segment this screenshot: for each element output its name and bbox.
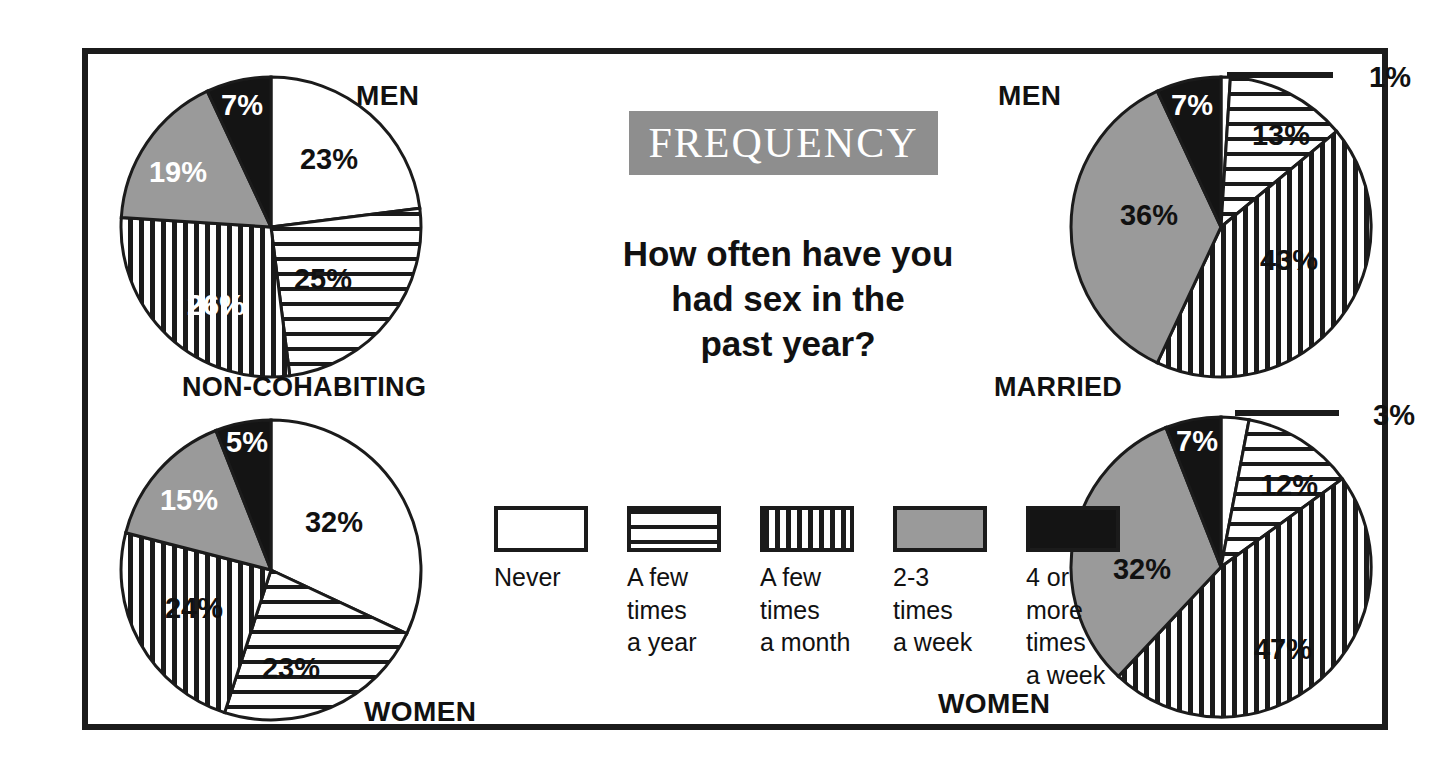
pct-label-few-times-year: 12%	[1260, 469, 1318, 501]
legend: Never A few times a year A few times a m…	[494, 506, 1126, 691]
swatch-few-times-month-icon	[760, 506, 854, 552]
legend-4more-line-3: times	[1026, 626, 1126, 659]
pie-svg-married-men: 1% 13% 43% 36% 7%	[1066, 62, 1396, 392]
label-men-non-cohabiting: MEN	[356, 80, 419, 112]
swatch-4-or-more-week-icon	[1026, 506, 1120, 552]
pct-label-few-times-year: 13%	[1252, 119, 1310, 151]
question-line-2: had sex in the	[578, 277, 998, 322]
pct-label-never: 3%	[1373, 399, 1415, 431]
swatch-few-times-year-icon	[627, 506, 721, 552]
pct-label-4-or-more-week: 7%	[1171, 89, 1213, 121]
legend-year-line-2: times	[627, 594, 727, 627]
legend-23-line-2: times	[893, 594, 993, 627]
question-heading: How often have you had sex in the past y…	[578, 232, 998, 366]
label-women-married: WOMEN	[938, 688, 1050, 720]
pct-label-never: 23%	[300, 143, 358, 175]
label-women-non-cohabiting: WOMEN	[364, 696, 476, 728]
legend-4more-line-1: 4 or	[1026, 561, 1126, 594]
legend-23-line-1: 2-3	[893, 561, 993, 594]
pct-label-few-times-year: 25%	[294, 263, 352, 295]
label-men-married: MEN	[998, 80, 1061, 112]
pie-svg-non-cohabiting-women: 32% 23% 24% 15% 5%	[106, 410, 436, 740]
legend-label-few-times-year: A few times a year	[627, 561, 727, 659]
legend-item-few-times-year: A few times a year	[627, 506, 727, 691]
infographic-page: FREQUENCY How often have you had sex in …	[0, 0, 1448, 784]
label-non-cohabiting: NON-COHABITING	[182, 372, 426, 403]
legend-label-4-or-more-week: 4 or more times a week	[1026, 561, 1126, 691]
pct-label-never: 1%	[1369, 61, 1411, 93]
pct-label-few-times-month: 47%	[1254, 633, 1312, 665]
pct-label-few-times-month: 43%	[1260, 244, 1318, 276]
legend-month-line-3: a month	[760, 626, 860, 659]
pct-label-4-or-more-week: 7%	[221, 89, 263, 121]
pie-non-cohabiting-women: 32% 23% 24% 15% 5% WOMEN	[106, 410, 436, 740]
pie-non-cohabiting-men: 23% 25% 26% 19% 7% MEN	[106, 62, 436, 392]
swatch-2-3-week-icon	[893, 506, 987, 552]
question-line-1: How often have you	[578, 232, 998, 277]
legend-4more-line-2: more	[1026, 594, 1126, 627]
frequency-banner: FREQUENCY	[629, 111, 938, 175]
legend-label-never: Never	[494, 561, 594, 594]
legend-year-line-1: A few	[627, 561, 727, 594]
pct-label-4-or-more-week: 5%	[226, 426, 268, 458]
question-line-3: past year?	[578, 322, 998, 367]
pct-label-4-or-more-week: 7%	[1176, 425, 1218, 457]
legend-label-2-3-week: 2-3 times a week	[893, 561, 993, 659]
legend-month-line-1: A few	[760, 561, 860, 594]
pct-label-2-3-week: 36%	[1120, 199, 1178, 231]
legend-never-line-1: Never	[494, 561, 594, 594]
legend-23-line-3: a week	[893, 626, 993, 659]
legend-item-few-times-month: A few times a month	[760, 506, 860, 691]
pct-label-2-3-week: 19%	[149, 156, 207, 188]
legend-item-2-3-week: 2-3 times a week	[893, 506, 993, 691]
legend-item-never: Never	[494, 506, 594, 691]
label-married: MARRIED	[994, 372, 1122, 403]
pie-married-men: 1% 13% 43% 36% 7% MEN	[1066, 62, 1396, 392]
legend-label-few-times-month: A few times a month	[760, 561, 860, 659]
pct-label-few-times-month: 24%	[165, 592, 223, 624]
banner-title: FREQUENCY	[648, 122, 918, 164]
legend-month-line-2: times	[760, 594, 860, 627]
pct-label-few-times-month: 26%	[187, 289, 245, 321]
pct-label-few-times-year: 23%	[262, 652, 320, 684]
pct-label-2-3-week: 15%	[160, 484, 218, 516]
legend-year-line-3: a year	[627, 626, 727, 659]
chart-frame: FREQUENCY How often have you had sex in …	[82, 48, 1388, 730]
swatch-never-icon	[494, 506, 588, 552]
legend-4more-line-4: a week	[1026, 659, 1126, 692]
pct-label-never: 32%	[305, 506, 363, 538]
legend-item-4-or-more-week: 4 or more times a week	[1026, 506, 1126, 691]
